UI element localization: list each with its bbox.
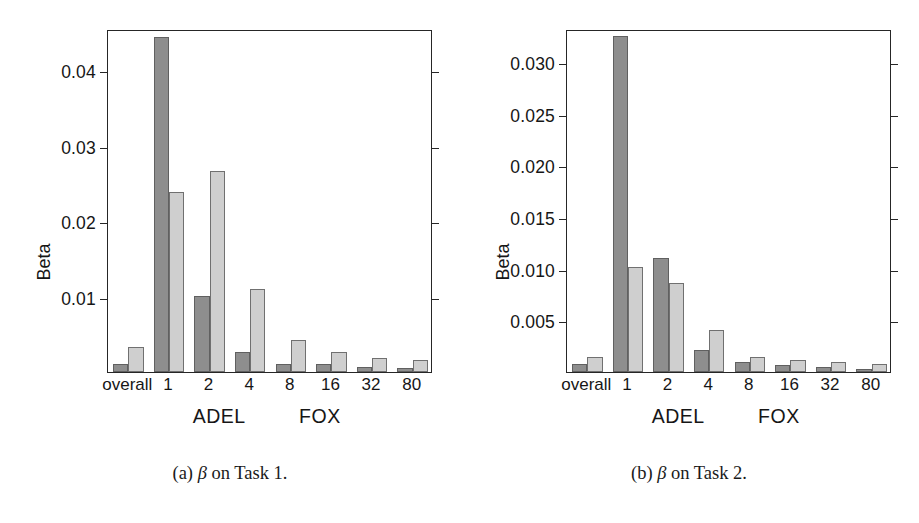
bar-adel-1 xyxy=(613,36,628,372)
figure-two-panel-bar-charts: Beta 0.010.020.030.04 overall1248163280 … xyxy=(0,0,919,523)
y-axis-tick-mirror-b xyxy=(890,116,898,117)
bar-adel-32 xyxy=(357,367,372,372)
x-axis-label-1: 1 xyxy=(163,375,172,395)
y-axis-tick-mirror-b xyxy=(890,219,898,220)
series-group-label-fox: FOX xyxy=(758,405,800,428)
caption-a-text: on Task 1. xyxy=(212,463,288,483)
bar-adel-80 xyxy=(397,368,412,372)
y-axis-tick-mirror-a xyxy=(431,223,439,224)
y-axis-tick-label-b: 0.010 xyxy=(510,260,555,281)
bar-adel-overall xyxy=(572,364,587,372)
bar-adel-overall xyxy=(113,364,128,372)
x-axis-label-4: 4 xyxy=(244,375,253,395)
bar-fox-2 xyxy=(669,283,684,372)
panel-b: Beta 0.0050.0100.0150.0200.0250.030 over… xyxy=(459,0,919,523)
y-axis-tick-mirror-b xyxy=(890,322,898,323)
bar-group-container-b xyxy=(567,31,890,372)
series-group-label-adel: ADEL xyxy=(193,405,246,428)
bar-fox-1 xyxy=(169,192,184,372)
x-axis-label-overall: overall xyxy=(561,375,611,395)
y-axis-tick-a xyxy=(100,72,108,73)
y-axis-tick-mirror-b xyxy=(890,271,898,272)
bar-fox-1 xyxy=(628,267,643,372)
x-axis-tick-labels-a: overall1248163280 xyxy=(107,375,432,399)
y-axis-tick-b xyxy=(559,167,567,168)
bar-fox-16 xyxy=(331,352,346,372)
caption-b-beta-symbol: β xyxy=(657,463,666,483)
caption-b-text: on Task 2. xyxy=(671,463,747,483)
series-group-label-fox: FOX xyxy=(299,405,341,428)
plot-area-a: 0.010.020.030.04 xyxy=(107,30,432,373)
y-axis-tick-a xyxy=(100,223,108,224)
bar-fox-4 xyxy=(250,289,265,372)
caption-b: (b) β on Task 2. xyxy=(459,463,919,484)
caption-b-prefix: (b) xyxy=(631,463,653,483)
bar-fox-8 xyxy=(750,357,765,372)
y-axis-tick-b xyxy=(559,116,567,117)
y-axis-tick-label-b: 0.015 xyxy=(510,209,555,230)
bar-adel-4 xyxy=(235,352,250,372)
y-axis-tick-a xyxy=(100,299,108,300)
bar-adel-80 xyxy=(856,369,871,372)
x-axis-label-overall: overall xyxy=(102,375,152,395)
bar-adel-4 xyxy=(694,350,709,372)
bar-fox-80 xyxy=(413,360,428,372)
bar-adel-2 xyxy=(194,296,209,372)
bar-adel-8 xyxy=(276,364,291,372)
x-axis-tick-labels-b: overall1248163280 xyxy=(566,375,891,399)
y-axis-tick-label-b: 0.005 xyxy=(510,312,555,333)
bar-group-container-a xyxy=(108,31,431,372)
x-axis-label-1: 1 xyxy=(622,375,631,395)
y-axis-tick-label-b: 0.020 xyxy=(510,157,555,178)
x-axis-label-8: 8 xyxy=(744,375,753,395)
y-axis-tick-a xyxy=(100,148,108,149)
y-axis-tick-b xyxy=(559,271,567,272)
y-axis-tick-label-a: 0.01 xyxy=(61,288,96,309)
bar-fox-2 xyxy=(210,171,225,372)
x-axis-label-16: 16 xyxy=(780,375,799,395)
y-axis-tick-label-a: 0.02 xyxy=(61,213,96,234)
y-axis-tick-label-a: 0.04 xyxy=(61,62,96,83)
plot-area-b: 0.0050.0100.0150.0200.0250.030 xyxy=(566,30,891,373)
y-axis-tick-mirror-a xyxy=(431,148,439,149)
y-axis-tick-label-a: 0.03 xyxy=(61,137,96,158)
bar-fox-8 xyxy=(291,340,306,372)
x-axis-label-2: 2 xyxy=(204,375,213,395)
caption-a-prefix: (a) xyxy=(173,463,194,483)
y-axis-tick-mirror-b xyxy=(890,64,898,65)
x-axis-group-labels-b: ADELFOX xyxy=(566,405,891,433)
bar-fox-overall xyxy=(128,347,143,372)
x-axis-label-80: 80 xyxy=(861,375,880,395)
caption-a-beta-symbol: β xyxy=(198,463,207,483)
bar-adel-16 xyxy=(775,365,790,372)
y-axis-tick-mirror-b xyxy=(890,167,898,168)
bar-fox-32 xyxy=(831,362,846,372)
y-axis-tick-label-b: 0.030 xyxy=(510,54,555,75)
panel-a: Beta 0.010.020.030.04 overall1248163280 … xyxy=(0,0,460,523)
y-axis-tick-mirror-a xyxy=(431,72,439,73)
bar-adel-1 xyxy=(154,37,169,372)
x-axis-label-80: 80 xyxy=(402,375,421,395)
bar-fox-overall xyxy=(587,357,602,372)
series-group-label-adel: ADEL xyxy=(652,405,705,428)
bar-adel-8 xyxy=(735,362,750,372)
x-axis-label-8: 8 xyxy=(285,375,294,395)
y-axis-tick-b xyxy=(559,64,567,65)
x-axis-label-32: 32 xyxy=(362,375,381,395)
x-axis-label-16: 16 xyxy=(321,375,340,395)
y-axis-tick-b xyxy=(559,219,567,220)
bar-fox-32 xyxy=(372,358,387,372)
bar-adel-16 xyxy=(316,364,331,372)
bar-adel-2 xyxy=(653,258,668,372)
bar-adel-32 xyxy=(816,367,831,372)
y-axis-tick-b xyxy=(559,322,567,323)
y-axis-tick-label-b: 0.025 xyxy=(510,105,555,126)
x-axis-group-labels-a: ADELFOX xyxy=(107,405,432,433)
x-axis-label-32: 32 xyxy=(821,375,840,395)
bar-fox-4 xyxy=(709,330,724,372)
y-axis-title-a: Beta xyxy=(34,243,55,280)
x-axis-label-4: 4 xyxy=(703,375,712,395)
caption-a: (a) β on Task 1. xyxy=(0,463,460,484)
bar-fox-16 xyxy=(790,360,805,372)
y-axis-tick-mirror-a xyxy=(431,299,439,300)
